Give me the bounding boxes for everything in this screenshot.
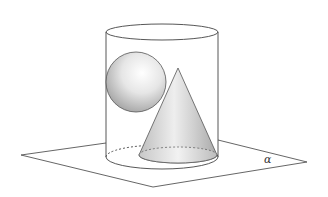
plane-label: α	[264, 153, 272, 166]
geometry-diagram: α	[0, 0, 328, 197]
sphere	[106, 52, 166, 112]
cylinder-top-ellipse	[106, 24, 218, 40]
